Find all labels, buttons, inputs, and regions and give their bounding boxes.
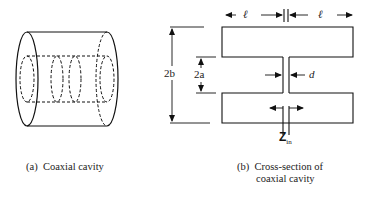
caption-a-prefix: (a) [26, 161, 38, 172]
upper-cavity-outline [222, 27, 353, 57]
caption-b-line2: coaxial cavity [237, 173, 323, 185]
inner-conductor-hidden [20, 56, 114, 102]
input-impedance-label: Zin [279, 130, 292, 146]
gap-label: d [309, 68, 315, 80]
outer-cylinder-front-face [16, 32, 38, 126]
inner-diameter-label: 2a [194, 68, 204, 80]
outer-diameter-label: 2b [164, 67, 175, 79]
cross-section-diagram [222, 9, 353, 135]
caption-panel-a: (a) Coaxial cavity [26, 161, 104, 173]
length-left-label: ℓ [243, 8, 248, 20]
outer-diameter-text: 2b [164, 67, 175, 79]
caption-b-line1: Cross-section of [255, 161, 324, 172]
zin-subscript: in [286, 138, 291, 146]
coaxial-cavity-3d [16, 32, 118, 126]
outer-cylinder-back-face-visible [107, 32, 118, 126]
outer-cylinder-back-face-hidden [96, 32, 107, 126]
lower-cavity-outline [222, 93, 353, 123]
caption-a-text: Coaxial cavity [43, 161, 104, 172]
length-right-label: ℓ [318, 8, 323, 20]
inner-diameter-text: 2a [194, 68, 204, 80]
caption-b-prefix: (b) [237, 161, 249, 172]
caption-panel-b: (b) Cross-section of coaxial cavity [237, 161, 323, 185]
